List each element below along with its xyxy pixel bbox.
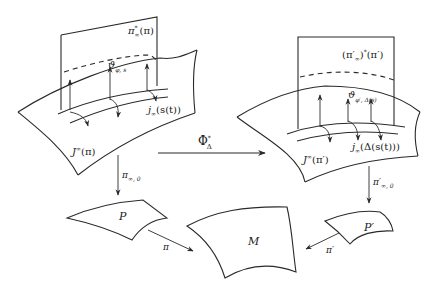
pi-prime-label: π′ [325, 245, 334, 255]
right-plane-label: (π′∞)*(π′) [342, 48, 383, 62]
left-jet-curve [58, 89, 168, 123]
left-vertical-arrows [70, 64, 147, 110]
right-surface-label: J∞(π′) [301, 153, 329, 165]
pi-label: π [162, 242, 170, 252]
base-P-label: P [118, 210, 127, 223]
right-distribution-curve [300, 72, 394, 80]
right-projection-label: π′∞, 0 [372, 177, 394, 189]
phi-delta-label: Φ*Δ [198, 134, 212, 151]
base-M-label: M [247, 235, 260, 248]
right-jet-curve [287, 123, 405, 141]
base-P-prime-label: P′ [363, 221, 374, 234]
right-jet-curve-label: j∞(Δ(s(t))) [350, 141, 400, 154]
left-projection-label: π∞, 0 [121, 170, 141, 182]
base-P [67, 200, 167, 240]
left-distribution-label: ϑφ, s [108, 59, 126, 74]
pi-prime-arrow [306, 233, 339, 249]
base-M [187, 207, 296, 278]
left-plane-label: π*∞(π) [127, 24, 154, 38]
pi-arrow [148, 230, 193, 251]
left-surface-label: J∞(π) [70, 145, 95, 157]
base-P-prime [325, 211, 393, 244]
diagram-canvas: π*∞(π) ϑφ, s j∞(s(t)) J∞(π) Φ*Δ (π′∞ [0, 0, 433, 292]
left-jet-curve-label: j∞(s(t)) [146, 104, 181, 117]
